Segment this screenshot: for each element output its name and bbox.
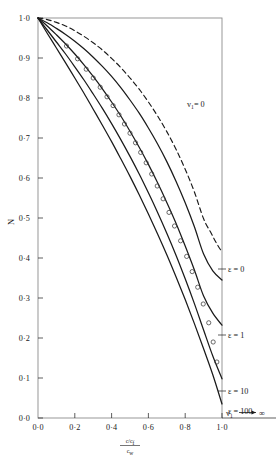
curve-label-eps0: ε = 0 <box>228 265 244 274</box>
y-tick-label: 0·7 <box>19 134 30 143</box>
y-tick-label: 0·4 <box>19 254 30 263</box>
y-tick-label: 1·0 <box>19 14 30 23</box>
x-tick-label: 0·8 <box>180 423 191 432</box>
x-tick-label: 0·2 <box>69 423 80 432</box>
x-axis-end-symbol: ∞ <box>259 409 265 418</box>
y-tick-label: 0·1 <box>19 374 30 383</box>
y-tick-label: 0·5 <box>19 214 30 223</box>
y-tick-label: 0·8 <box>19 94 30 103</box>
x-tick-label: 1·0 <box>216 423 227 432</box>
y-tick-label: 0·0 <box>19 414 30 423</box>
curve-label-dashed: v1= 0 <box>187 100 205 110</box>
x-tick-label: 0·4 <box>106 423 117 432</box>
y-axis-title: N <box>7 219 16 225</box>
curve-label-eps1: ε = 1 <box>228 331 244 340</box>
curve-label-eps10: ε = 10 <box>228 387 248 396</box>
y-tick-label: 0·2 <box>19 334 30 343</box>
y-tick-label: 0·9 <box>19 54 30 63</box>
chart-figure: 0·00·10·20·30·40·50·60·70·80·91·0 0·00·2… <box>0 0 280 460</box>
x-tick-label: 0·0 <box>32 423 43 432</box>
y-tick-label: 0·6 <box>19 174 30 183</box>
curve-label-dashed-text: v1= 0 <box>187 100 205 110</box>
x-tick-label: 0·6 <box>143 423 154 432</box>
y-tick-label: 0·3 <box>19 294 30 303</box>
curve-label-eps100: ε = 100 <box>228 407 252 416</box>
